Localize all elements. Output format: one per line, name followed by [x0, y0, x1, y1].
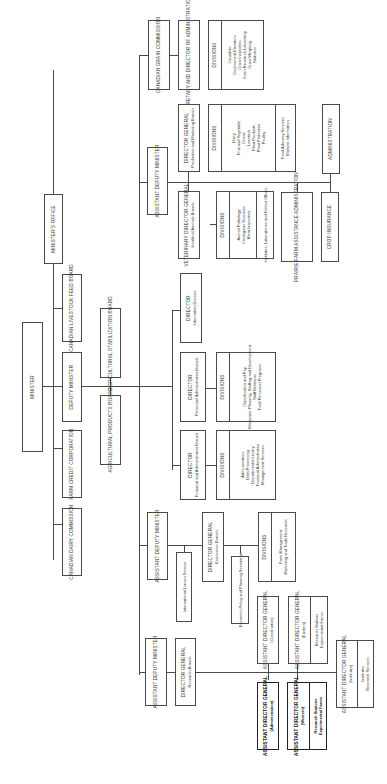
node-title: ASSISTANT DIRECTOR GENERAL	[293, 676, 299, 756]
node-subtitle: (Western)	[299, 676, 304, 756]
node-assistant-deputy-minister-production: ASSISTANT DEPUTY MINISTER	[147, 147, 168, 215]
node-title: DIVISIONS	[212, 125, 218, 150]
node-title: ASSISTANT DIRECTOR GENERAL	[263, 591, 269, 670]
division-item: Contagious Diseases	[240, 206, 245, 244]
node-title: AGRICULTURAL STABILIZATION BOARD	[108, 296, 114, 390]
node-adg-western: ASSISTANT DIRECTOR GENERAL (Western) Res…	[287, 682, 327, 750]
division-item: Experimental Farms	[319, 612, 324, 648]
node-title: VETERINARY DIRECTOR GENERAL	[184, 183, 190, 266]
division-item: Animal Pathology	[235, 206, 240, 244]
node-title: CROP INSURANCE	[327, 205, 333, 249]
division-item: Poultry	[261, 121, 266, 156]
node-assistant-deputy-minister-research: ASSISTANT DEPUTY MINISTER	[145, 638, 167, 706]
node-production-divisions: DIVISIONS Dairy Fruit and Vegetable Grai…	[208, 104, 296, 172]
node-economics-divisions: DIVISIONS Farm Management Marketing and …	[258, 512, 296, 582]
node-deputy-minister: DEPUTY MINISTER	[62, 352, 82, 422]
node-grain-divisions: DIVISIONS Canadian Government Elevators …	[208, 20, 264, 90]
division-item: Research Services	[365, 657, 370, 691]
node-title: ASSISTANT DIRECTOR GENERAL	[263, 676, 269, 756]
division-item: Field Personnel Programs	[257, 345, 262, 429]
node-title: FARM CREDIT CORPORATION	[69, 429, 75, 500]
node-administration: ADMINISTRATION	[322, 104, 340, 174]
node-agricultural-stabilization-board: AGRICULTURAL STABILIZATION BOARD	[100, 308, 121, 378]
node-title: DIRECTOR	[186, 290, 192, 325]
node-title: DIRECTOR GENERAL	[184, 108, 190, 167]
node-assistant-deputy-minister-economics: ASSISTANT DEPUTY MINISTER	[147, 512, 168, 580]
node-title: Economic Policy and Planning Secretariat	[238, 553, 243, 627]
node-title: CANADIAN GRAIN COMMISSION	[156, 17, 162, 93]
node-title: SECRETARY AND DIRECTOR OF ADMINISTRATION	[186, 0, 192, 115]
connector	[43, 386, 141, 387]
node-director-information: DIRECTOR Information Division	[180, 273, 202, 343]
node-title: ASSISTANT DIRECTOR GENERAL	[342, 635, 348, 714]
division-item: Markets Information	[285, 117, 290, 159]
division-item: Research Stations	[313, 697, 318, 735]
connector	[196, 672, 346, 673]
node-canadian-livestock-feed-board: CANADIAN LIVESTOCK FEED BOARD	[62, 274, 82, 342]
node-adg-administration: ASSISTANT DIRECTOR GENERAL (Administrati…	[257, 682, 279, 750]
connector	[188, 182, 331, 183]
node-title: DIVISIONS	[220, 452, 226, 477]
node-adg-eastern: ASSISTANT DIRECTOR GENERAL (Eastern) Res…	[288, 596, 328, 664]
connector	[172, 465, 180, 466]
node-title: ASSISTANT DEPUTY MINISTER	[155, 144, 161, 217]
connector	[53, 70, 54, 560]
connector	[139, 182, 147, 183]
division-item: Meat Inspection	[245, 206, 250, 244]
node-financial-divisions: DIVISIONS Administration Data Processing…	[216, 430, 276, 500]
node-ministers-office: MINISTER'S OFFICE	[44, 194, 63, 264]
node-economic-policy: Economic Policy and Planning Secretariat	[231, 556, 249, 624]
node-subtitle: Financial and Administration Branch	[193, 433, 198, 497]
node-title: CANADIAN DAIRY COMMISSION	[69, 504, 75, 579]
node-dg-production-marketing: DIRECTOR GENERAL Production and Marketin…	[178, 104, 200, 172]
connector	[330, 174, 331, 192]
node-personnel-divisions: DIVISIONS Classification and Pay Manpowe…	[216, 352, 276, 422]
node-title: DIVISIONS	[262, 534, 268, 559]
node-title: CANADIAN LIVESTOCK FEED BOARD	[69, 264, 75, 352]
division-item: Research Stations	[314, 612, 319, 648]
node-subtitle: (Coordination)	[268, 591, 273, 670]
node-title: DIVISIONS	[212, 42, 218, 67]
node-secretary-director-administration: SECRETARY AND DIRECTOR OF ADMINISTRATION	[178, 20, 200, 90]
division-item: Statistics	[252, 31, 257, 79]
node-title: DIVISIONS	[220, 374, 226, 399]
node-title: ASSISTANT DEPUTY MINISTER	[155, 509, 161, 582]
node-farm-credit-corporation: FARM CREDIT CORPORATION	[62, 430, 82, 498]
node-title: DIVISIONS	[220, 212, 226, 237]
node-health-divisions: DIVISIONS Animal Pathology Contagious Di…	[216, 191, 274, 259]
node-subtitle: Health of Animals Branch	[189, 183, 194, 266]
connector	[240, 545, 241, 553]
node-title: DIRECTOR GENERAL	[180, 647, 186, 697]
node-crop-insurance: CROP INSURANCE	[321, 192, 339, 262]
node-agricultural-products-board: AGRICULTURAL PRODUCTS BOARD	[100, 395, 121, 465]
node-veterinary-dg: VETERINARY DIRECTOR GENERAL Health of An…	[178, 191, 200, 259]
node-prairie-farm-assistance: PRAIRIE FARM ASSISTANCE ADMINISTRATION	[281, 192, 313, 262]
node-title: ADMINISTRATION	[328, 118, 334, 160]
node-title: DEPUTY MINISTER	[69, 365, 75, 410]
division-item: Experimental Farms	[318, 697, 323, 735]
node-canadian-dairy-commission: CANADIAN DAIRY COMMISSION	[62, 508, 82, 576]
node-subtitle: Economics Branch	[213, 522, 218, 572]
node-dg-economics: DIRECTOR GENERAL Economics Branch	[202, 512, 224, 582]
node-title: AGRICULTURAL PRODUCTS BOARD	[108, 387, 114, 472]
node-title: ASSISTANT DIRECTOR GENERAL	[294, 591, 300, 670]
division-item: Management Services	[260, 444, 265, 486]
node-canadian-grain-commission: CANADIAN GRAIN COMMISSION	[148, 20, 170, 90]
connector	[172, 310, 173, 470]
connector	[139, 386, 173, 387]
node-adg-institutes: ASSISTANT DIRECTOR GENERAL (Institutes) …	[336, 640, 374, 708]
node-subtitle: Personnel Administration Branch	[193, 358, 198, 416]
node-minister: MINISTER	[22, 322, 43, 452]
node-subtitle: Production and Marketing Branch	[189, 108, 194, 167]
division-item: Institutes, Laboratories and District Of…	[262, 187, 267, 262]
node-title: PRAIRIE FARM ASSISTANCE ADMINISTRATION	[294, 172, 300, 282]
node-title: DIRECTOR GENERAL	[208, 522, 214, 572]
connector	[170, 55, 178, 56]
node-subtitle: (Institutes)	[347, 635, 352, 714]
node-title: International Liaison Service	[182, 562, 187, 612]
node-international-liaison: International Liaison Service	[176, 552, 192, 622]
node-subtitle: Information Division	[191, 290, 196, 325]
node-subtitle: (Eastern)	[300, 591, 305, 670]
node-director-financial: DIRECTOR Financial and Administration Br…	[180, 430, 206, 500]
node-subtitle: Research Branch	[186, 647, 191, 697]
